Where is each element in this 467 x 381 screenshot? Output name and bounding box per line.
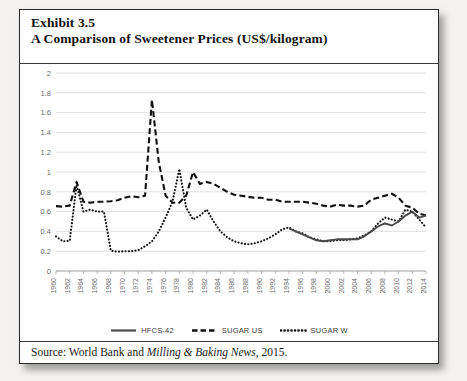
y-axis-tick-label: 1.6 <box>41 108 51 117</box>
legend-label: SUGAR W <box>311 326 348 335</box>
exhibit-box: Exhibit 3.5 A Comparison of Sweetener Pr… <box>19 9 439 364</box>
legend-swatch <box>191 326 218 335</box>
x-axis-tick-label: 1980 <box>187 278 194 294</box>
x-axis-tick-label: 1970 <box>119 278 126 294</box>
source-suffix: , 2015. <box>256 346 288 358</box>
grid-lines <box>56 73 426 271</box>
source-note: Source: World Bank and Milling & Baking … <box>31 346 431 358</box>
y-axis-tick-label: 0.2 <box>41 247 51 256</box>
x-axis-tick-label: 2014 <box>420 278 427 294</box>
legend-swatch <box>110 326 137 335</box>
legend-hfcs-42[interactable]: HFCS-42 <box>110 326 174 335</box>
y-axis-tick-label: 1.2 <box>41 148 51 157</box>
series-line-sugar-us <box>56 100 426 216</box>
x-axis-tick-label: 1982 <box>201 278 208 294</box>
exhibit-page: Exhibit 3.5 A Comparison of Sweetener Pr… <box>0 0 467 381</box>
x-axis-tick-label: 2004 <box>351 278 358 294</box>
y-axis-ticks: 00.20.40.60.811.21.41.61.82 <box>41 69 51 276</box>
legend-swatch <box>280 326 307 335</box>
x-axis-tick-label: 1988 <box>242 278 249 294</box>
x-axis-tick-label: 1984 <box>214 278 221 294</box>
x-axis-tick-label: 2010 <box>393 278 400 294</box>
x-axis-tick-label: 1986 <box>228 278 235 294</box>
x-axis-tick-label: 2012 <box>406 278 413 294</box>
x-axis-ticks: 1960196219641966196819701972197419761978… <box>50 271 427 294</box>
y-axis-tick-label: 1.8 <box>41 89 51 98</box>
x-axis-tick-label: 1978 <box>173 278 180 294</box>
x-axis-tick-label: 1968 <box>105 278 112 294</box>
x-axis-tick-label: 1960 <box>50 278 57 294</box>
y-axis-tick-label: 0.4 <box>41 227 51 236</box>
exhibit-title-block: Exhibit 3.5 A Comparison of Sweetener Pr… <box>31 15 431 47</box>
source-divider <box>20 341 438 342</box>
series-line-hfcs-42 <box>289 212 426 242</box>
x-axis-tick-label: 2008 <box>379 278 386 294</box>
y-axis-tick-label: 0 <box>47 267 51 276</box>
x-axis-tick-label: 1990 <box>256 278 263 294</box>
legend-sugar-us[interactable]: SUGAR US <box>191 326 263 335</box>
y-axis-tick-label: 1.4 <box>41 128 51 137</box>
chart-plot-area: 00.20.40.60.811.21.41.61.82 196019621964… <box>26 67 432 325</box>
x-axis-tick-label: 1964 <box>77 278 84 294</box>
series-line-sugar-w <box>56 169 426 252</box>
legend-label: SUGAR US <box>222 326 263 335</box>
x-axis-tick-label: 2000 <box>324 278 331 294</box>
x-axis-tick-label: 1972 <box>132 278 139 294</box>
y-axis-tick-label: 0.8 <box>41 188 51 197</box>
data-series-group <box>56 100 426 252</box>
x-axis-tick-label: 1962 <box>64 278 71 294</box>
x-axis-tick-label: 2002 <box>338 278 345 294</box>
x-axis-tick-label: 1974 <box>146 278 153 294</box>
x-axis-tick-label: 1966 <box>91 278 98 294</box>
exhibit-title: A Comparison of Sweetener Prices (US$/ki… <box>31 31 431 47</box>
title-divider <box>20 63 438 64</box>
x-axis-tick-label: 1994 <box>283 278 290 294</box>
exhibit-number: Exhibit 3.5 <box>31 15 431 31</box>
x-axis-tick-label: 1998 <box>310 278 317 294</box>
x-axis-tick-label: 1996 <box>297 278 304 294</box>
legend-sugar-w[interactable]: SUGAR W <box>280 326 348 335</box>
source-publication: Milling & Baking News <box>147 346 256 358</box>
chart-legend: HFCS-42SUGAR USSUGAR W <box>20 326 438 335</box>
y-axis-tick-label: 0.6 <box>41 207 51 216</box>
x-axis-tick-label: 2006 <box>365 278 372 294</box>
legend-label: HFCS-42 <box>141 326 174 335</box>
y-axis-tick-label: 2 <box>47 69 51 78</box>
source-prefix: Source: World Bank and <box>31 346 147 358</box>
y-axis-tick-label: 1 <box>47 168 51 177</box>
x-axis-tick-label: 1976 <box>160 278 167 294</box>
sweetener-prices-line-chart: 00.20.40.60.811.21.41.61.82 196019621964… <box>26 67 432 325</box>
x-axis-tick-label: 1992 <box>269 278 276 294</box>
